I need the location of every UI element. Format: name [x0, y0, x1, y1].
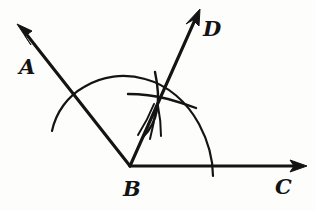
ray-BA-shaft [27, 35, 130, 166]
point-label-C: C [275, 176, 292, 197]
ray-BA-arrowhead [17, 24, 32, 45]
ray-BD-group [130, 9, 200, 166]
point-label-B: B [123, 178, 141, 199]
point-label-D: D [203, 18, 221, 39]
geometry-drawing-canvas [0, 0, 316, 211]
geometry-figure: A D B C [0, 0, 316, 211]
point-label-A: A [19, 56, 35, 77]
ray-BC-group [130, 160, 307, 172]
construction-arcs-group [128, 72, 196, 139]
ray-BA-group [17, 24, 130, 166]
construction-wisp-3 [158, 106, 161, 136]
